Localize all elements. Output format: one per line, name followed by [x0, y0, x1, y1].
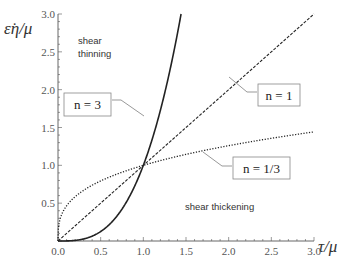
legend-n1: n = 1 [229, 77, 300, 106]
curve-n13 [58, 132, 314, 241]
shear-thickening-label: shear thickening [185, 201, 254, 212]
shear-rate-chart: 0.00.51.01.52.02.53.00.51.01.52.02.53.0 … [0, 0, 343, 268]
legend-n13-text: n = 1/3 [243, 161, 280, 176]
legend-n3: n = 3 [64, 93, 144, 116]
shear-thinning-label: shear [78, 35, 102, 46]
x-tick-label: 0.5 [94, 245, 108, 257]
legend-n3-text: n = 3 [74, 97, 101, 112]
x-tick-label: 2.0 [222, 245, 236, 257]
x-tick-label: 0.0 [51, 245, 65, 257]
x-tick-label: 2.5 [264, 245, 278, 257]
legend-n1-text: n = 1 [266, 88, 293, 103]
curve-n3 [58, 14, 181, 241]
y-tick-label: 1.0 [41, 159, 55, 171]
x-tick-label: 1.0 [136, 245, 150, 257]
y-tick-label: 0.5 [41, 197, 55, 209]
y-tick-label: 2.5 [41, 46, 55, 58]
y-axis-title: ε̇η/μ [4, 19, 32, 38]
y-tick-label: 3.0 [41, 8, 55, 20]
x-axis-title: τ/μ [318, 237, 337, 256]
y-tick-label: 2.0 [41, 84, 55, 96]
y-tick-label: 1.5 [41, 122, 55, 134]
x-tick-label: 1.5 [179, 245, 193, 257]
legend-n13: n = 1/3 [203, 152, 290, 179]
shear-thinning-label-2: thinning [78, 48, 111, 59]
